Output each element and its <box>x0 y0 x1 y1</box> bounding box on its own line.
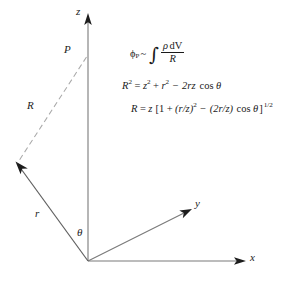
eq2-term3: 2rz <box>182 80 195 91</box>
eq1-dv: dV <box>170 40 183 51</box>
eq3-equals: = <box>140 103 146 114</box>
eq1-integral-sign: ∫ <box>149 43 159 65</box>
y-axis-arrowhead <box>179 209 192 218</box>
eq1-fraction: ρdVR <box>161 40 184 65</box>
eq2-equals: = <box>134 80 140 91</box>
r-vector-label: r <box>35 208 39 219</box>
r-vector-line <box>22 170 89 262</box>
theta-angle-label: θ <box>77 227 82 238</box>
y-axis-label: y <box>195 198 200 209</box>
eq3-term1-exponent: 2 <box>193 101 197 109</box>
eq3-term1: (r/z) <box>175 103 193 114</box>
eq2-term1-exponent: 2 <box>147 78 151 86</box>
eq3-cos: cos <box>237 103 251 114</box>
r-vector-arrowhead <box>16 162 28 175</box>
equation-law-of-cosines: R2=z2+r2−2rzcosθ <box>122 79 221 91</box>
eq2-cos: cos <box>200 80 214 91</box>
eq3-outer-exponent: 1/2 <box>264 101 273 109</box>
point-P-label: P <box>64 44 71 55</box>
eq2-operator-minus: − <box>173 80 179 91</box>
equation-potential-integral: ϕP~∫ρdVR <box>130 40 185 65</box>
eq3-lhs: R <box>131 103 137 114</box>
eq1-phi-subscript: P <box>136 52 140 59</box>
equation-expanded-R: R=z[1+(r/z)2−(2r/z)cosθ]1/2 <box>131 102 273 114</box>
eq2-theta: θ <box>216 80 221 91</box>
eq3-operator-minus: − <box>200 103 206 114</box>
eq3-term2: (2r/z) <box>210 103 233 114</box>
z-axis-label: z <box>76 6 80 17</box>
x-axis-label: x <box>250 252 255 263</box>
eq2-operator-plus: + <box>153 80 159 91</box>
eq2-lhs-exponent: 2 <box>128 78 132 86</box>
eq3-one: 1 <box>159 103 164 114</box>
eq3-z: z <box>148 103 152 114</box>
physics-geometry-figure: z y x P R r θ ϕP~∫ρdVR R2=z2+r2−2rzcosθ … <box>0 0 301 282</box>
y-axis-line <box>88 213 184 261</box>
eq3-bracket-close: ] <box>259 103 263 114</box>
eq1-rho: ρ <box>163 40 168 51</box>
eq1-numerator: ρdV <box>161 40 184 53</box>
eq1-relation: ~ <box>140 48 146 59</box>
eq1-denominator: R <box>161 53 184 65</box>
R-vector-label: R <box>27 100 34 111</box>
eq2-term2-exponent: 2 <box>166 78 170 86</box>
eq3-theta: θ <box>253 103 258 114</box>
eq3-operator-plus: + <box>167 103 173 114</box>
